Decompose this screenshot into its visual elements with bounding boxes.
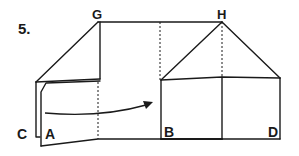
bottom-edge [41, 139, 280, 146]
label-b: B [164, 124, 174, 140]
fold-arrow-curve [45, 105, 146, 114]
outer-flap-c [36, 82, 40, 137]
label-d: D [268, 124, 278, 140]
step-number: 5. [18, 20, 31, 37]
label-h: H [217, 7, 226, 22]
g-diagonal-edge [36, 22, 98, 82]
label-c: C [17, 126, 27, 142]
h-left-diagonal [161, 22, 222, 80]
label-a: A [45, 126, 55, 142]
label-g: G [92, 7, 102, 22]
fold-arrow [45, 101, 153, 114]
origami-step-diagram: 5. G H C A B D [0, 0, 299, 156]
triangle-base [161, 77, 280, 80]
arrowhead-icon [143, 101, 153, 109]
h-right-diagonal [222, 22, 280, 78]
